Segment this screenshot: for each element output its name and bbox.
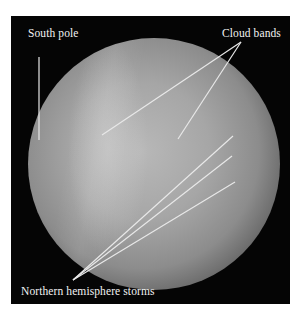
cloud-bands-label: Cloud bands <box>222 27 281 39</box>
northern-storms-label: Northern hemisphere storms <box>21 285 155 297</box>
cloud-band-line-1 <box>102 42 241 135</box>
annotation-lines <box>0 0 299 314</box>
south-pole-label: South pole <box>28 27 79 39</box>
storm-line-3 <box>73 182 235 280</box>
cloud-band-line-2 <box>178 42 241 139</box>
storm-line-2 <box>73 156 232 280</box>
storm-line-1 <box>73 136 233 280</box>
